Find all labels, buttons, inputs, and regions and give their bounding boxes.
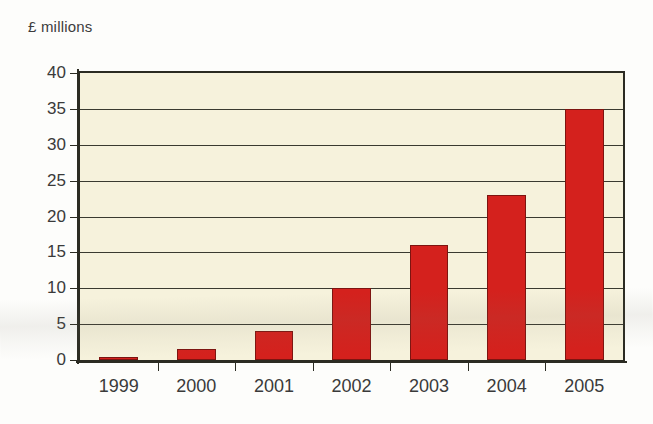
bar <box>177 349 216 360</box>
bar <box>255 331 294 360</box>
gridline <box>80 109 623 110</box>
y-axis-tick-label: 15 <box>6 242 66 262</box>
x-axis-tick-label: 2002 <box>331 376 371 397</box>
bar <box>487 195 526 360</box>
y-axis-title: £ millions <box>28 18 93 35</box>
y-axis-tick <box>70 73 78 74</box>
y-axis-tick-label: 25 <box>6 171 66 191</box>
x-axis-tick-labels: 1999200020012002200320042005 <box>78 362 625 402</box>
y-axis-tick-label: 5 <box>6 314 66 334</box>
bar <box>332 288 371 360</box>
x-axis-tick-label: 2003 <box>409 376 449 397</box>
y-axis-tick-label: 20 <box>6 207 66 227</box>
x-axis-tick-label: 2005 <box>564 376 604 397</box>
x-axis-tick-label: 2004 <box>487 376 527 397</box>
gridline <box>80 181 623 182</box>
y-axis-tick <box>70 181 78 182</box>
x-axis-tick-label: 2001 <box>254 376 294 397</box>
y-axis-tick <box>70 324 78 325</box>
y-axis-tick <box>70 360 78 361</box>
y-axis-tick <box>70 217 78 218</box>
y-axis-tick <box>70 145 78 146</box>
y-axis-tick-label: 40 <box>6 63 66 83</box>
y-axis-tick <box>70 252 78 253</box>
gridline <box>80 252 623 253</box>
bar <box>99 357 138 360</box>
x-axis-tick-label: 1999 <box>99 376 139 397</box>
plot-wrapper: 0510152025303540 19992000200120022003200… <box>78 71 625 362</box>
y-axis-tick <box>70 288 78 289</box>
chart-page: £ millions 0510152025303540 199920002001… <box>0 0 653 424</box>
bar <box>565 109 604 360</box>
x-axis-tick-label: 2000 <box>176 376 216 397</box>
y-axis-tick-label: 30 <box>6 135 66 155</box>
y-axis-tick-labels: 0510152025303540 <box>6 71 66 362</box>
y-axis-tick-label: 10 <box>6 278 66 298</box>
bar <box>410 245 449 360</box>
y-axis-tick-label: 35 <box>6 99 66 119</box>
plot-area <box>78 71 625 362</box>
gridline <box>80 145 623 146</box>
y-axis-tick <box>70 109 78 110</box>
y-axis-tick-label: 0 <box>6 350 66 370</box>
gridline <box>80 217 623 218</box>
